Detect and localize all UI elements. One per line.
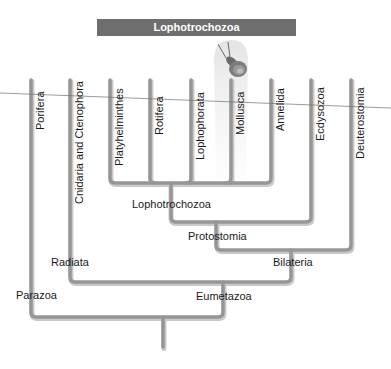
taxon-cnidaria-ctenophora: Cnidaria and Ctenophora xyxy=(73,81,85,204)
header-lophotrochozoa: Lophotrochozoa xyxy=(97,19,296,36)
clade-radiata: Radiata xyxy=(51,256,89,268)
clade-lophotrochozoa: Lophotrochozoa xyxy=(132,198,211,210)
clade-eumetazoa: Eumetazoa xyxy=(196,290,252,302)
clade-parazoa: Parazoa xyxy=(16,289,57,301)
clade-protostomia: Protostomia xyxy=(188,230,247,242)
taxon-deuterostomia: Deuterostomia xyxy=(354,87,366,159)
taxon-lophophorata: Lophophorata xyxy=(194,92,206,160)
taxon-platyhelminthes: Platyhelminthes xyxy=(113,88,125,166)
phylogenetic-tree: Lophotrochozoa Porifera Cnidaria and Cte… xyxy=(0,0,391,369)
taxon-ecdysozoa: Ecdysozoa xyxy=(314,87,326,141)
tree-branches xyxy=(0,0,391,369)
taxon-porifera: Porifera xyxy=(34,91,46,130)
clade-bilateria: Bilateria xyxy=(273,256,313,268)
taxon-rotifera: Rotifera xyxy=(153,96,165,135)
taxon-mollusca: Mollusca xyxy=(234,92,246,135)
taxon-annelida: Annelida xyxy=(274,88,286,131)
